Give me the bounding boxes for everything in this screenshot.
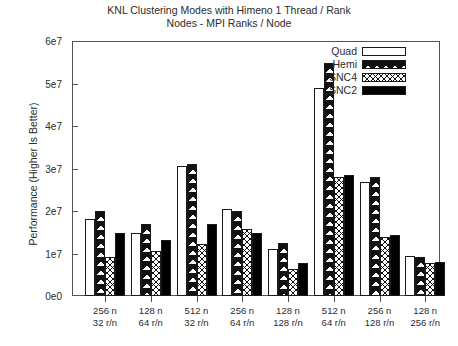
legend-item-snc2: SNC2 <box>329 84 406 96</box>
bar-hemi <box>141 224 151 296</box>
bar-snc2 <box>115 233 125 296</box>
x-tick-label-nodes: 128 n <box>394 305 456 317</box>
x-tick-mark <box>242 296 243 302</box>
bar-group <box>85 42 125 296</box>
legend-swatch-quad <box>362 47 406 56</box>
bar-hemi <box>187 164 197 297</box>
legend-label-quad: Quad <box>331 45 357 57</box>
x-tick-mark <box>288 296 289 302</box>
bar-hemi <box>370 177 380 296</box>
chart-container: KNL Clustering Modes with Himeno 1 Threa… <box>0 0 458 346</box>
bar-snc4 <box>151 251 161 296</box>
bar-quad <box>405 256 415 296</box>
x-tick-label-ranks: 256 r/n <box>394 317 456 329</box>
bar-snc4 <box>334 177 344 296</box>
legend-label-snc4: SNC4 <box>329 71 357 83</box>
bar-snc2 <box>344 175 354 296</box>
bar-quad <box>85 219 95 296</box>
legend-swatch-hemi <box>362 60 406 69</box>
legend-item-snc4: SNC4 <box>329 71 406 83</box>
bar-quad <box>177 166 187 296</box>
x-tick-mark <box>334 296 335 302</box>
x-tick-mark <box>425 296 426 302</box>
y-tick-label-4: 4e7 <box>45 121 62 132</box>
y-tick-label-5: 5e7 <box>45 78 62 89</box>
bar-snc2 <box>207 224 217 296</box>
y-tick-label-3: 3e7 <box>45 163 62 174</box>
legend-item-hemi: Hemi <box>329 58 406 70</box>
bar-group <box>177 42 217 296</box>
bar-quad <box>268 249 278 296</box>
x-tick-mark <box>151 296 152 302</box>
bar-hemi <box>415 257 425 296</box>
bar-quad <box>360 182 370 296</box>
bar-quad <box>131 233 141 296</box>
chart-legend: Quad Hemi SNC4 SNC2 <box>329 45 406 96</box>
bar-snc4 <box>288 269 298 296</box>
bar-snc2 <box>435 262 445 296</box>
bar-group <box>222 42 262 296</box>
bar-snc4 <box>380 237 390 296</box>
x-tick-label: 128 n256 r/n <box>394 305 456 329</box>
y-tick-label-2: 2e7 <box>45 206 62 217</box>
bar-snc2 <box>252 233 262 296</box>
bar-quad <box>314 88 324 296</box>
y-tick-label-6: 6e7 <box>45 36 62 47</box>
bar-snc4 <box>242 229 252 296</box>
legend-label-hemi: Hemi <box>333 58 358 70</box>
y-tick-label-0: 0e0 <box>45 291 62 302</box>
legend-label-snc2: SNC2 <box>329 84 357 96</box>
bar-hemi <box>278 243 288 296</box>
bar-snc4 <box>197 244 207 296</box>
bar-snc4 <box>105 257 115 296</box>
bar-hemi <box>95 211 105 296</box>
bar-group <box>131 42 171 296</box>
y-axis-labels: 0e0 1e7 2e7 3e7 4e7 5e7 6e7 <box>0 0 70 346</box>
bar-quad <box>222 209 232 296</box>
legend-swatch-snc2 <box>362 86 406 95</box>
bar-group <box>268 42 308 296</box>
bar-hemi <box>232 211 242 296</box>
x-tick-mark <box>105 296 106 302</box>
legend-swatch-snc4 <box>362 73 406 82</box>
x-tick-mark <box>197 296 198 302</box>
y-tick-label-1: 1e7 <box>45 248 62 259</box>
bar-snc2 <box>390 235 400 296</box>
bar-group <box>405 42 445 296</box>
bar-snc2 <box>161 240 171 296</box>
legend-item-quad: Quad <box>329 45 406 57</box>
bar-hemi <box>324 63 334 296</box>
bar-snc4 <box>425 263 435 296</box>
bar-snc2 <box>298 263 308 296</box>
x-tick-mark <box>380 296 381 302</box>
